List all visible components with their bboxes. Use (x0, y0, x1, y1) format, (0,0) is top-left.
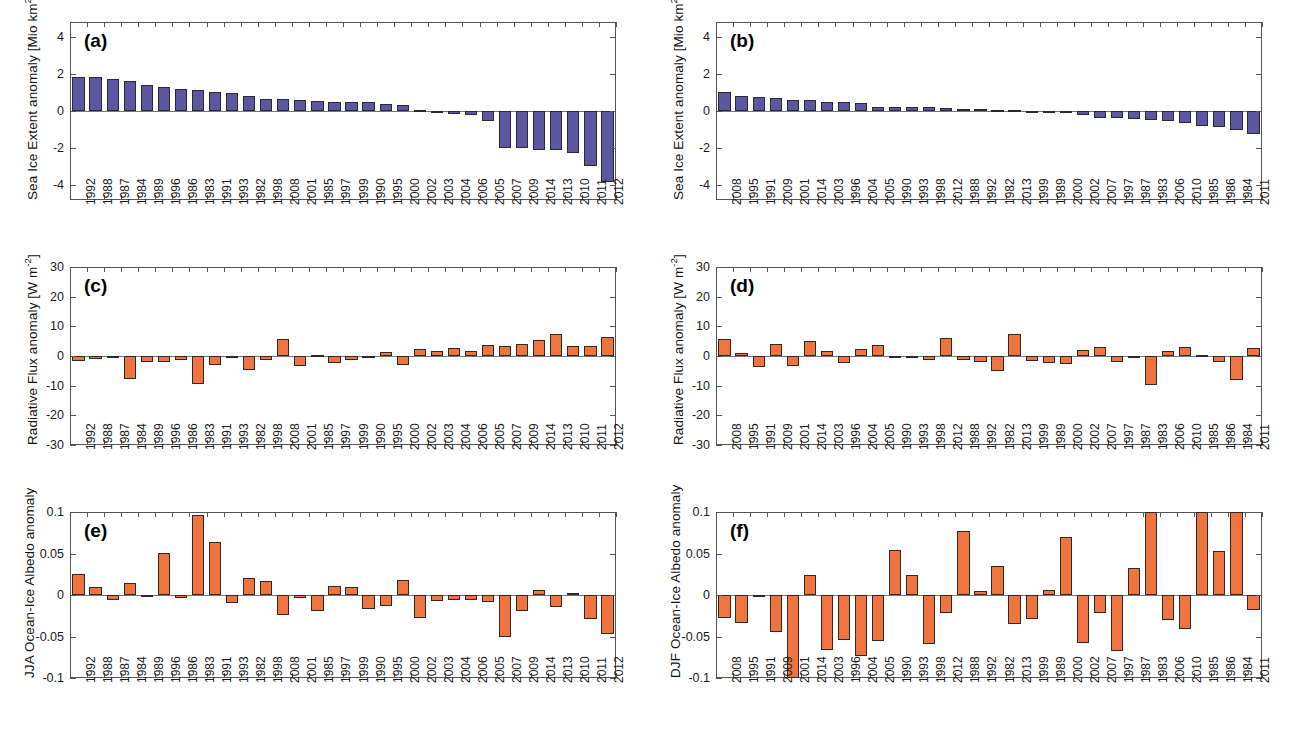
xtick-mark (1091, 512, 1092, 517)
xtick-mark (716, 673, 717, 678)
xtick-label-year: 1997 (1122, 656, 1136, 683)
bar (889, 550, 901, 595)
bar (735, 595, 747, 623)
xtick-mark (750, 512, 751, 517)
xtick-label-year: 2008 (730, 656, 744, 683)
xtick-label-year: 1999 (1037, 656, 1051, 683)
bars-f (716, 512, 1262, 678)
xtick-mark (955, 512, 956, 517)
xtick-label-year: 1986 (1224, 656, 1238, 683)
xtick-label-year: 2011 (1258, 657, 1272, 683)
ytick-mark (1256, 554, 1262, 555)
panel-tag-f: (f) (730, 520, 749, 542)
figure-root: 420-2-4199219881987198419891996198619831… (0, 0, 1292, 731)
xtick-mark (853, 512, 854, 517)
xtick-mark (887, 512, 888, 517)
xtick-label-year: 2010 (1190, 656, 1204, 683)
bar (1247, 595, 1259, 610)
xtick-mark (1160, 512, 1161, 517)
bar (940, 595, 952, 613)
xtick-label-year: 1985 (1207, 656, 1221, 683)
bar (1026, 595, 1038, 619)
xtick-mark (870, 512, 871, 517)
xtick-mark (1126, 512, 1127, 517)
ytick-mark (716, 637, 722, 638)
bar (923, 595, 935, 644)
xtick-label-year: 2007 (1105, 656, 1119, 683)
xtick-label-year: 2013 (1020, 656, 1034, 683)
bar (1128, 568, 1140, 595)
xtick-label-year: 1982 (1003, 656, 1017, 683)
bar (1162, 595, 1174, 620)
plot-area-f (716, 512, 1262, 678)
xtick-label-year: 1991 (764, 656, 778, 683)
xtick-mark (818, 512, 819, 517)
bar (974, 591, 986, 595)
xtick-mark (1211, 512, 1212, 517)
xtick-label-year: 1987 (1139, 656, 1153, 683)
xtick-label-year: 1984 (1241, 656, 1255, 683)
xtick-label-year: 1993 (917, 656, 931, 683)
bar (1145, 512, 1157, 595)
bar (821, 595, 833, 650)
bar (1008, 595, 1020, 624)
bar (770, 595, 782, 632)
bar (1077, 595, 1089, 643)
xtick-mark (1108, 512, 1109, 517)
bar (1179, 595, 1191, 629)
bar (906, 575, 918, 595)
bar (991, 566, 1003, 595)
y-axis-title-f: DJF Ocean-Ice Albedo anomaly (668, 485, 683, 678)
xtick-label-year: 1989 (1054, 656, 1068, 683)
xtick-label-year: 2005 (883, 656, 897, 683)
ytick-mark (1256, 595, 1262, 596)
xtick-mark (1177, 512, 1178, 517)
xtick-label-year: 1990 (900, 656, 914, 683)
xtick-mark (1023, 512, 1024, 517)
bar (1094, 595, 1106, 613)
xtick-mark (767, 512, 768, 517)
xtick-mark (904, 512, 905, 517)
xtick-label-year: 1998 (934, 656, 948, 683)
xtick-label-year: 2004 (866, 656, 880, 683)
xtick-mark (921, 512, 922, 517)
xtick-label-year: 2003 (832, 656, 846, 683)
bar (804, 575, 816, 595)
xtick-label-year: 2002 (1088, 656, 1102, 683)
ytick-mark (1256, 637, 1262, 638)
xtick-label-year: 1992 (985, 656, 999, 683)
bar (1230, 512, 1242, 595)
xtick-mark (835, 512, 836, 517)
xtick-mark (938, 512, 939, 517)
bar (838, 595, 850, 640)
bar (1060, 537, 1072, 595)
panel-f: 0.10.050-0.05-0.120081995199120092001201… (0, 0, 1292, 731)
xtick-mark (1194, 512, 1195, 517)
bar (855, 595, 867, 656)
xtick-label-year: 1988 (968, 656, 982, 683)
xtick-mark (989, 512, 990, 517)
bar (1111, 595, 1123, 651)
xtick-mark (1040, 512, 1041, 517)
bar (957, 531, 969, 595)
ytick-mark (716, 595, 722, 596)
xtick-mark (1143, 512, 1144, 517)
bar (1213, 551, 1225, 595)
ytick-mark (716, 554, 722, 555)
bar (1043, 590, 1055, 595)
bar (753, 595, 765, 597)
xtick-mark (733, 512, 734, 517)
xtick-label-year: 2000 (1071, 656, 1085, 683)
y-axis-title-text: DJF Ocean-Ice Albedo anomaly (668, 485, 683, 678)
xtick-label-year: 2012 (951, 656, 965, 683)
xtick-label-year: 1983 (1156, 656, 1170, 683)
bar (718, 595, 730, 618)
xtick-mark (1006, 512, 1007, 517)
xtick-mark (1245, 512, 1246, 517)
xtick-label-year: 2009 (781, 656, 795, 683)
bar (872, 595, 884, 641)
xtick-label-year: 2006 (1173, 656, 1187, 683)
xtick-mark (716, 512, 717, 517)
xtick-label-year: 1996 (849, 656, 863, 683)
xtick-mark (1057, 512, 1058, 517)
